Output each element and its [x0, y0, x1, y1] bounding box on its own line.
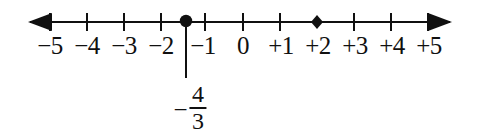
tick-label-plus-5: +5 [416, 33, 442, 58]
tick-label-zero: 0 [237, 33, 249, 58]
tick-label-minus-1: −1 [190, 33, 216, 58]
fraction-label-negative-four-thirds: − 4 3 [173, 82, 206, 131]
fraction-numerator: 4 [190, 82, 206, 106]
tick-label-minus-4: −4 [74, 33, 100, 58]
tick-label-plus-1: +1 [268, 33, 294, 58]
fraction-stack: 4 3 [190, 82, 207, 131]
fraction-denominator: 3 [190, 109, 206, 131]
right-arrowhead-icon [428, 13, 452, 31]
tick-label-plus-2: +2 [305, 33, 331, 58]
tick-label-minus-2: −2 [148, 33, 174, 58]
left-arrowhead-icon [28, 13, 52, 31]
plotted-point-positive-two [311, 15, 323, 29]
number-line-figure: −5 −4 −3 −2 −1 0 +1 +2 +3 +4 +5 − 4 3 [0, 0, 478, 131]
tick-label-minus-5: −5 [37, 33, 63, 58]
plotted-point-negative-four-thirds [180, 15, 192, 27]
tick-label-minus-3: −3 [111, 33, 137, 58]
number-line-graphic [0, 0, 478, 131]
tick-label-plus-4: +4 [379, 33, 405, 58]
tick-label-plus-3: +3 [342, 33, 368, 58]
fraction-minus-sign: − [173, 97, 187, 122]
